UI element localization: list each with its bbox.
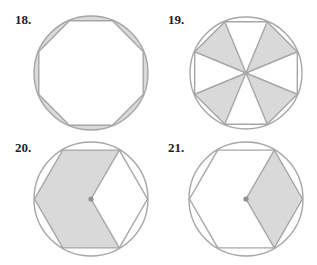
figure-18: 18. <box>15 12 148 130</box>
octagon <box>39 21 143 125</box>
shaded-rhombus <box>246 150 303 248</box>
shaded-triangle <box>246 22 297 73</box>
figure-label: 19. <box>168 12 184 27</box>
figure-21: 21. <box>168 140 303 256</box>
shaded-triangle <box>246 73 297 124</box>
shaded-triangle <box>195 73 246 124</box>
figure-canvas: 18. 19. 20. 21. <box>0 0 317 265</box>
center-dot <box>88 196 93 201</box>
figure-19: 19. <box>168 12 302 129</box>
shaded-chevron <box>35 150 120 248</box>
figure-20: 20. <box>15 140 148 256</box>
figure-label: 21. <box>168 140 184 155</box>
figure-label: 20. <box>15 140 31 155</box>
figure-label: 18. <box>15 12 31 27</box>
center-dot <box>243 196 248 201</box>
shaded-triangle <box>195 22 246 73</box>
